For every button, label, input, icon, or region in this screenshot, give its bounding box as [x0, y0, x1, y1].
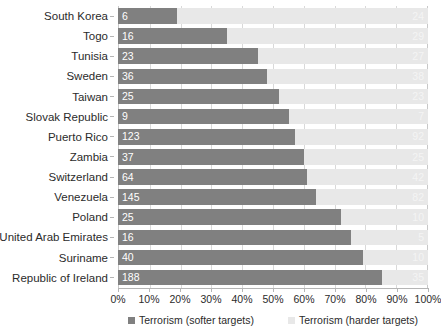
bar-value-label: 42 — [412, 172, 424, 183]
bar-segment-softer-targets: 123 — [118, 129, 295, 145]
bar-value-label: 38 — [412, 71, 424, 82]
bar-value-label: 25 — [412, 152, 424, 163]
category-tick — [110, 136, 114, 137]
bar-value-label: 37 — [122, 152, 134, 163]
bar-rows: 6241629232736382523971239237256442145822… — [118, 6, 428, 288]
bar-segment-harder-targets: 82 — [316, 189, 428, 205]
bar-row: 624 — [118, 6, 428, 26]
bar-row: 4010 — [118, 248, 428, 268]
category-tick — [110, 36, 114, 37]
bar-value-label: 5 — [418, 232, 424, 243]
bar-row: 3725 — [118, 147, 428, 167]
bar-value-label: 35 — [412, 272, 424, 283]
x-axis-tick — [335, 288, 336, 292]
category-tick — [110, 257, 114, 258]
bar-segment-harder-targets: 25 — [304, 149, 428, 165]
bar-segment-harder-targets: 7 — [289, 109, 429, 125]
bar-value-label: 92 — [412, 131, 424, 142]
legend-item[interactable]: Terrorism (harder targets) — [288, 314, 418, 326]
x-axis-tick-label: 50% — [262, 293, 283, 305]
category-label: Puerto Rico — [0, 127, 114, 147]
bar-segment-softer-targets: 37 — [118, 149, 304, 165]
bar-value-label: 188 — [122, 272, 140, 283]
bar-value-label: 29 — [412, 31, 424, 42]
bar-segment-softer-targets: 145 — [118, 189, 316, 205]
bar-segment-harder-targets: 5 — [351, 230, 429, 246]
category-label: Venezuela — [0, 187, 114, 207]
category-tick — [110, 56, 114, 57]
legend-swatch-icon — [128, 317, 135, 324]
bar-row: 2510 — [118, 207, 428, 227]
x-axis-tick-label: 80% — [355, 293, 376, 305]
bar-row: 14582 — [118, 187, 428, 207]
x-axis-tick-label: 20% — [169, 293, 190, 305]
bar-row: 2523 — [118, 87, 428, 107]
bar-value-label: 64 — [122, 172, 134, 183]
legend-label: Terrorism (harder targets) — [299, 314, 418, 326]
category-tick — [110, 197, 114, 198]
category-label: Togo — [0, 26, 114, 46]
bar-segment-softer-targets: 40 — [118, 250, 363, 266]
bar-segment-softer-targets: 6 — [118, 8, 177, 24]
bar-value-label: 24 — [412, 11, 424, 22]
bar-segment-harder-targets: 27 — [258, 48, 429, 64]
x-axis-tick — [211, 288, 212, 292]
category-label: Zambia — [0, 147, 114, 167]
bar-segment-softer-targets: 25 — [118, 209, 341, 225]
category-tick — [110, 217, 114, 218]
bar-segment-harder-targets: 24 — [177, 8, 428, 24]
bar-value-label: 16 — [122, 31, 134, 42]
bar-value-label: 82 — [412, 192, 424, 203]
bar-segment-softer-targets: 36 — [118, 69, 267, 85]
category-label: Suriname — [0, 248, 114, 268]
category-label: Tunisia — [0, 46, 114, 66]
x-axis-tick — [273, 288, 274, 292]
bar-segment-softer-targets: 188 — [118, 270, 382, 286]
bar-value-label: 23 — [412, 91, 424, 102]
category-label: Switzerland — [0, 167, 114, 187]
category-tick — [110, 277, 114, 278]
bar-value-label: 7 — [418, 111, 424, 122]
x-axis-tick-label: 90% — [386, 293, 407, 305]
category-axis: South KoreaTogoTunisiaSwedenTaiwanSlovak… — [0, 6, 114, 288]
bar-segment-softer-targets: 16 — [118, 230, 351, 246]
bar-segment-harder-targets: 42 — [307, 169, 428, 185]
bar-value-label: 16 — [122, 232, 134, 243]
bar-row: 2327 — [118, 46, 428, 66]
x-axis-tick-label: 40% — [231, 293, 252, 305]
bar-value-label: 36 — [122, 71, 134, 82]
bar-segment-softer-targets: 9 — [118, 109, 289, 125]
bar-segment-harder-targets: 10 — [363, 250, 428, 266]
bar-value-label: 10 — [412, 252, 424, 263]
legend-label: Terrorism (softer targets) — [139, 314, 254, 326]
bar-row: 18835 — [118, 268, 428, 288]
x-axis-tick-label: 100% — [415, 293, 441, 305]
category-label: Slovak Republic — [0, 107, 114, 127]
bar-value-label: 25 — [122, 212, 134, 223]
bar-row: 97 — [118, 107, 428, 127]
x-axis-tick — [304, 288, 305, 292]
bar-row: 165 — [118, 227, 428, 247]
bar-value-label: 123 — [122, 131, 140, 142]
category-tick — [110, 237, 114, 238]
legend-swatch-icon — [288, 317, 295, 324]
bar-segment-softer-targets: 64 — [118, 169, 307, 185]
category-label: South Korea — [0, 6, 114, 26]
x-axis-tick — [242, 288, 243, 292]
legend-item[interactable]: Terrorism (softer targets) — [128, 314, 254, 326]
x-axis-tick — [428, 288, 429, 292]
bar-value-label: 25 — [122, 91, 134, 102]
x-axis-labels: 0%10%20%30%40%50%60%70%80%90%100% — [118, 293, 428, 309]
x-axis-tick — [180, 288, 181, 292]
x-axis-tick — [149, 288, 150, 292]
x-axis-tick-label: 10% — [138, 293, 159, 305]
category-tick — [110, 156, 114, 157]
category-tick — [110, 96, 114, 97]
chart-legend: Terrorism (softer targets)Terrorism (har… — [118, 312, 428, 328]
bar-value-label: 10 — [412, 212, 424, 223]
bar-segment-softer-targets: 23 — [118, 48, 258, 64]
x-axis-tick-label: 0% — [110, 293, 125, 305]
bar-row: 3638 — [118, 66, 428, 86]
bar-value-label: 145 — [122, 192, 140, 203]
